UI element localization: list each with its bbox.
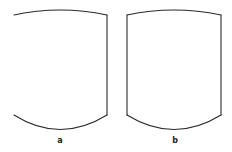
figure-b-bottom-arc xyxy=(127,115,221,130)
figure-b-top-arc xyxy=(127,10,221,15)
figure-a-top-arc xyxy=(14,10,107,15)
figure-a-label: a xyxy=(57,136,62,145)
figure-b-label: b xyxy=(172,136,178,145)
diagram-canvas: a b xyxy=(0,0,232,152)
figure-a-bottom-arc xyxy=(14,115,107,130)
figure-b: b xyxy=(127,10,221,145)
figure-a: a xyxy=(14,10,107,145)
